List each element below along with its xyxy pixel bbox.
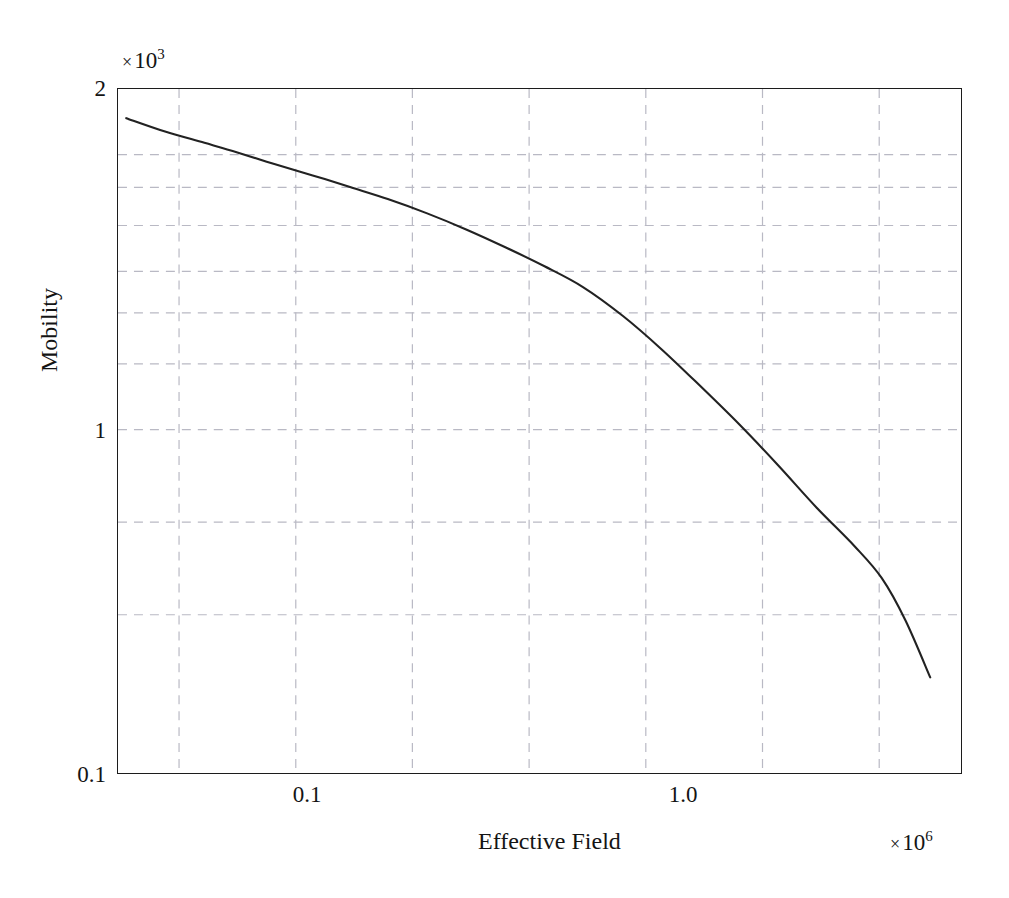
x-multiplier-exponent: 6 bbox=[925, 828, 933, 844]
x-tick-label-left: 0.1 bbox=[293, 782, 322, 808]
x-multiplier-times: × bbox=[890, 834, 902, 854]
y-axis-multiplier: ×103 bbox=[122, 48, 165, 74]
plot-area bbox=[117, 88, 962, 774]
x-tick-label-right: 1.0 bbox=[669, 782, 698, 808]
x-axis-multiplier: ×106 bbox=[890, 830, 933, 856]
series-line-mobility-vs-effective-field bbox=[126, 118, 930, 677]
y-multiplier-times: × bbox=[122, 52, 134, 72]
x-axis-title: Effective Field bbox=[478, 828, 621, 855]
y-multiplier-exponent: 3 bbox=[157, 46, 165, 62]
y-multiplier-base: 10 bbox=[134, 48, 157, 73]
y-tick-label-top: 2 bbox=[95, 76, 107, 102]
y-axis-title: Mobility bbox=[36, 288, 63, 372]
x-multiplier-base: 10 bbox=[902, 830, 925, 855]
data-curve bbox=[118, 89, 961, 773]
chart-figure: ×103 2 1 0.1 0.1 1.0 Mobility Effective … bbox=[0, 0, 1009, 898]
y-tick-label-mid: 1 bbox=[95, 418, 107, 444]
y-tick-label-bottom: 0.1 bbox=[77, 762, 106, 788]
